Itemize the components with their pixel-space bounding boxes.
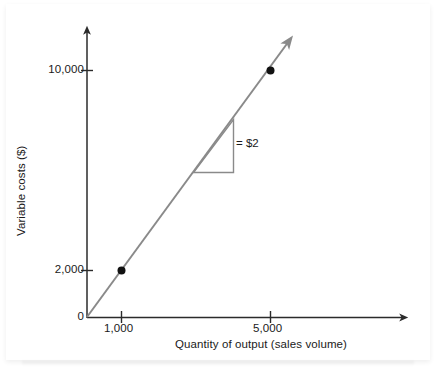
variable-cost-chart-figure: 10,000 2,000 0 1,000 5,000 Quantity of o…	[0, 0, 442, 380]
y-axis-title: Variable costs ($)	[16, 111, 28, 271]
x-tick-label-5000: 5,000	[253, 323, 282, 335]
data-point-5000-10000	[267, 67, 275, 75]
slope-triangle	[194, 120, 234, 173]
slope-annotation-label: = $2	[236, 138, 259, 150]
y-tick-label-10000: 10,000	[48, 64, 84, 76]
y-tick-label-0: 0	[78, 311, 85, 323]
chart-canvas	[0, 0, 442, 380]
variable-cost-line	[87, 41, 289, 317]
y-tick-label-2000: 2,000	[55, 264, 84, 276]
data-point-1000-2000	[118, 267, 126, 275]
x-axis-title: Quantity of output (sales volume)	[0, 339, 442, 351]
x-tick-label-1000: 1,000	[104, 323, 133, 335]
